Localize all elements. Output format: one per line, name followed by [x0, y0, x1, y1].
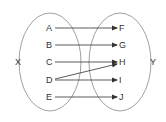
- element-d: D: [46, 75, 53, 85]
- element-b: B: [46, 40, 52, 50]
- element-j: J: [119, 92, 124, 102]
- mapping-diagram: X Y A B C D E F G H I J: [0, 0, 166, 122]
- arrow-d-h: [55, 64, 117, 79]
- set-x-label: X: [15, 57, 21, 67]
- element-g: G: [119, 40, 126, 50]
- element-a: A: [46, 23, 52, 33]
- element-f: F: [119, 23, 125, 33]
- element-e: E: [46, 92, 52, 102]
- element-i: I: [119, 75, 122, 85]
- element-h: H: [119, 57, 126, 67]
- set-y-label: Y: [150, 57, 156, 67]
- element-c: C: [46, 57, 53, 67]
